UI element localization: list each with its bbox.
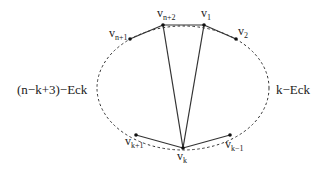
vertex-v_n+2: [161, 23, 165, 27]
vertex-v_n+1: [128, 37, 132, 41]
vertex-v_k+1: [134, 133, 138, 137]
vertex-v_1: [202, 23, 206, 27]
edge-v_1-v_k: [183, 25, 204, 148]
vertex-label-v_2: v2: [238, 24, 248, 40]
vertex-label-v_k: vk: [177, 149, 187, 165]
dashed-boundary-ellipse: [97, 26, 269, 150]
vertex-labels: vn+2v1vn+1v2vk+1vk−1vk: [109, 6, 248, 165]
nodes: [128, 23, 238, 150]
vertex-label-v_1: v1: [201, 6, 211, 22]
edge-v_k-v_k-1: [183, 135, 230, 148]
edge-v_n+2-v_k: [163, 25, 183, 148]
region-label-right: k−Eck: [276, 82, 311, 97]
vertex-label-v_n+2: vn+2: [157, 6, 176, 22]
edge-v_1-v_2: [204, 25, 236, 39]
edges: [130, 25, 236, 148]
vertex-label-v_n+1: vn+1: [109, 26, 128, 42]
edge-v_n+1-v_n+2: [130, 25, 163, 39]
polygon-diagram: vn+2v1vn+1v2vk+1vk−1vk (n−k+3)−Eck k−Eck: [0, 0, 325, 169]
region-label-left: (n−k+3)−Eck: [17, 82, 88, 97]
vertex-label-v_k-1: vk−1: [225, 137, 244, 153]
